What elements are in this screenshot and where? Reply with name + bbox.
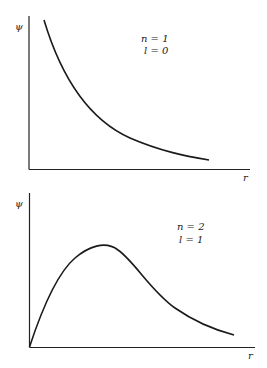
x-axis-label: r bbox=[243, 172, 249, 183]
wavefunction-curve bbox=[44, 20, 209, 160]
y-axis-label: ψ bbox=[15, 198, 23, 209]
quantum-number-l: l = 1 bbox=[179, 234, 203, 245]
quantum-number-n: n = 2 bbox=[177, 221, 205, 232]
quantum-number-n: n = 1 bbox=[141, 33, 169, 44]
plot-n1-l0: ψ r n = 1 l = 0 bbox=[15, 16, 250, 183]
plot-n2-l1: ψ r n = 2 l = 1 bbox=[15, 193, 255, 361]
figure: ψ r n = 1 l = 0 ψ r n = 2 l = 1 bbox=[0, 0, 267, 368]
y-axis-label: ψ bbox=[15, 21, 23, 32]
x-axis-label: r bbox=[248, 350, 254, 361]
wavefunction-curve bbox=[30, 245, 235, 347]
quantum-number-l: l = 0 bbox=[144, 45, 169, 56]
